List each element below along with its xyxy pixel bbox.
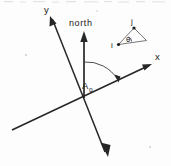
azimuth-subscript-label: o (89, 86, 93, 93)
figure-root: y x north A o j i θ (0, 0, 171, 166)
vector-i-label: i (111, 41, 113, 50)
x-axis-label: x (155, 51, 160, 62)
vector-j-label: j (130, 17, 133, 26)
x-axis (12, 64, 152, 130)
vector-triangle (117, 26, 147, 46)
azimuth-arc (84, 62, 121, 83)
north-label: north (69, 18, 93, 28)
azimuth-diagram: y x north A o j i θ (0, 0, 171, 166)
y-axis (50, 16, 111, 157)
theta-label: θ (126, 35, 130, 44)
azimuth-label: A (82, 80, 89, 91)
y-axis-label: y (44, 4, 49, 15)
